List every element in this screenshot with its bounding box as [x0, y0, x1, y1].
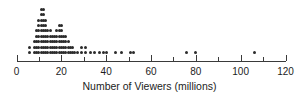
x-axis-line	[17, 61, 286, 62]
x-axis-minor-tick	[263, 57, 264, 61]
x-axis-minor-tick	[129, 57, 130, 61]
x-axis-minor-tick	[84, 57, 85, 61]
dot-plot-figure: 020406080100120 Number of Viewers (milli…	[0, 0, 299, 97]
x-axis-tick-label: 80	[176, 66, 216, 77]
x-axis-title: Number of Viewers (millions)	[0, 80, 299, 92]
x-axis-major-tick	[17, 55, 18, 61]
x-axis-tick-label: 0	[0, 66, 37, 77]
x-axis-tick-label: 20	[41, 66, 81, 77]
x-axis-minor-tick	[218, 57, 219, 61]
x-axis-minor-tick	[39, 57, 40, 61]
x-axis-tick-label: 100	[221, 66, 261, 77]
x-axis-major-tick	[196, 55, 197, 61]
x-axis-major-tick	[241, 55, 242, 61]
x-axis-major-tick	[61, 55, 62, 61]
x-axis-major-tick	[151, 55, 152, 61]
x-axis-major-tick	[106, 55, 107, 61]
x-axis-tick-label: 40	[86, 66, 126, 77]
x-axis-minor-tick	[173, 57, 174, 61]
x-axis-tick-label: 60	[131, 66, 171, 77]
x-axis-tick-label: 120	[266, 66, 300, 77]
x-axis-major-tick	[286, 55, 287, 61]
